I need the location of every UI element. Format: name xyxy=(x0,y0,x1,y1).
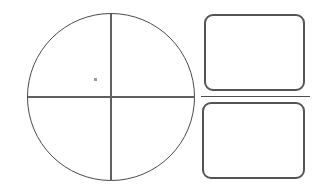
rounded-rectangle-bottom xyxy=(202,102,305,179)
vertical-diameter-line xyxy=(110,14,111,181)
figure-canvas xyxy=(0,0,324,186)
separator-rule xyxy=(201,96,310,98)
rounded-rectangle-top xyxy=(204,14,305,91)
stray-dot-mark xyxy=(94,78,97,81)
